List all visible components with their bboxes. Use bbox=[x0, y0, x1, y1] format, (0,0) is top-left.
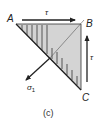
vertex-label-b: B bbox=[86, 18, 93, 29]
figure-caption: (c) bbox=[43, 108, 54, 118]
vertex-label-a: A bbox=[6, 13, 14, 24]
vertex-label-c: C bbox=[82, 92, 90, 103]
sigma1-label: σ1 bbox=[27, 83, 36, 93]
sigma1-arrow bbox=[26, 58, 50, 80]
stress-element-diagram: τ τ σ1 A B C (c) bbox=[0, 0, 101, 122]
tau-label-right: τ bbox=[90, 53, 94, 62]
tau-label-top: τ bbox=[45, 8, 49, 17]
